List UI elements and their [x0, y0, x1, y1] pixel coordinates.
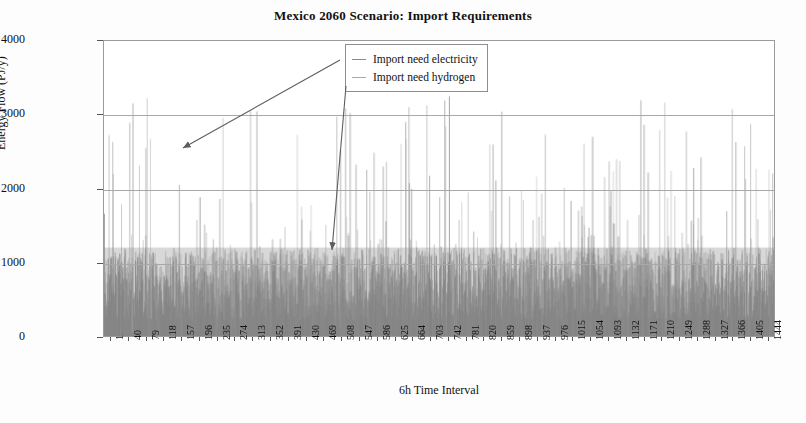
x-tick-mark: [679, 337, 680, 341]
x-tick-mark: [697, 337, 698, 341]
chart-figure: Mexico 2060 Scenario: Import Requirement…: [0, 0, 806, 423]
x-tick-label: 1444: [772, 320, 783, 340]
x-tick-mark: [288, 337, 289, 341]
line-marker-electricity-icon: [352, 59, 366, 60]
x-tick-label: 1405: [754, 320, 765, 340]
x-tick-label: 1054: [594, 320, 605, 340]
x-tick-mark: [430, 337, 431, 341]
x-tick-mark: [163, 337, 164, 341]
x-tick-mark: [252, 337, 253, 341]
x-tick-label: 235: [221, 325, 232, 340]
x-tick-label: 820: [487, 325, 498, 340]
x-tick-mark: [661, 337, 662, 341]
x-tick-mark: [590, 337, 591, 341]
x-tick-label: 976: [559, 325, 570, 340]
x-tick-mark: [306, 337, 307, 341]
y-tick-label: 3000: [0, 106, 25, 121]
y-tick-mark: [97, 189, 103, 190]
y-tick-label: 2000: [0, 181, 25, 196]
y-tick-mark: [97, 40, 103, 41]
x-tick-label: 118: [167, 325, 178, 340]
x-tick-label: 937: [541, 325, 552, 340]
x-tick-mark: [537, 337, 538, 341]
x-tick-mark: [110, 337, 111, 341]
legend-item-electricity[interactable]: Import need electricity: [352, 50, 478, 68]
x-tick-label: 508: [345, 325, 356, 340]
legend-item-hydrogen[interactable]: Import need hydrogen: [352, 68, 478, 86]
x-tick-label: 1093: [612, 320, 623, 340]
x-tick-label: 1288: [701, 320, 712, 340]
x-tick-label: 1366: [736, 320, 747, 340]
x-tick-mark: [483, 337, 484, 341]
x-tick-mark: [608, 337, 609, 341]
x-tick-mark: [750, 337, 751, 341]
x-tick-label: 157: [185, 325, 196, 340]
y-tick-label: 1000: [0, 255, 25, 270]
x-tick-mark: [199, 337, 200, 341]
x-tick-mark: [341, 337, 342, 341]
x-tick-mark: [448, 337, 449, 341]
legend-label-hydrogen: Import need hydrogen: [373, 71, 475, 83]
x-tick-mark: [626, 337, 627, 341]
x-tick-mark: [359, 337, 360, 341]
y-axis-label: Energy Flow (PJ/y): [0, 0, 9, 150]
x-tick-label: 1249: [683, 320, 694, 340]
x-tick-label: 1210: [665, 320, 676, 340]
x-tick-mark: [732, 337, 733, 341]
x-tick-mark: [146, 337, 147, 341]
x-tick-mark: [377, 337, 378, 341]
chart-title: Mexico 2060 Scenario: Import Requirement…: [0, 8, 806, 24]
x-tick-label: 547: [363, 325, 374, 340]
x-tick-label: 391: [292, 325, 303, 340]
gridline-y-1000: [104, 264, 774, 265]
x-tick-label: 40: [132, 330, 143, 340]
x-tick-mark: [644, 337, 645, 341]
x-tick-mark: [715, 337, 716, 341]
x-tick-label: 664: [416, 325, 427, 340]
x-tick-mark: [412, 337, 413, 341]
x-tick-label: 586: [381, 325, 392, 340]
gridline-y-3000: [104, 115, 774, 116]
x-tick-mark: [768, 337, 769, 341]
x-tick-label: 274: [238, 325, 249, 340]
line-marker-hydrogen-icon: [352, 77, 366, 78]
x-tick-mark: [395, 337, 396, 341]
y-tick-mark: [97, 337, 103, 338]
x-tick-label: 1: [114, 335, 125, 340]
x-tick-label: 313: [256, 325, 267, 340]
x-tick-mark: [128, 337, 129, 341]
x-axis-ticks: 1407911815719623527431335239143046950854…: [103, 340, 775, 384]
x-tick-label: 469: [327, 325, 338, 340]
x-axis-label: 6h Time Interval: [103, 383, 775, 398]
x-tick-label: 859: [505, 325, 516, 340]
x-tick-label: 352: [274, 325, 285, 340]
x-tick-label: 1327: [719, 320, 730, 340]
x-tick-label: 781: [470, 325, 481, 340]
x-tick-label: 703: [434, 325, 445, 340]
x-tick-label: 625: [399, 325, 410, 340]
x-tick-mark: [501, 337, 502, 341]
x-tick-mark: [181, 337, 182, 341]
x-tick-label: 79: [150, 330, 161, 340]
x-tick-mark: [270, 337, 271, 341]
x-tick-mark: [572, 337, 573, 341]
x-tick-mark: [217, 337, 218, 341]
x-tick-label: 898: [523, 325, 534, 340]
x-tick-label: 1015: [576, 320, 587, 340]
gridline-y-2000: [104, 190, 774, 191]
x-tick-mark: [519, 337, 520, 341]
x-tick-mark: [555, 337, 556, 341]
x-tick-mark: [323, 337, 324, 341]
x-tick-mark: [234, 337, 235, 341]
x-tick-label: 430: [310, 325, 321, 340]
x-tick-label: 742: [452, 325, 463, 340]
y-tick-label: 0: [0, 329, 25, 344]
y-tick-label: 4000: [0, 32, 25, 47]
x-tick-label: 1171: [648, 320, 659, 340]
y-tick-mark: [97, 263, 103, 264]
y-tick-mark: [97, 114, 103, 115]
x-tick-label: 1132: [630, 320, 641, 340]
x-tick-label: 196: [203, 325, 214, 340]
legend-label-electricity: Import need electricity: [373, 53, 478, 65]
x-tick-mark: [466, 337, 467, 341]
